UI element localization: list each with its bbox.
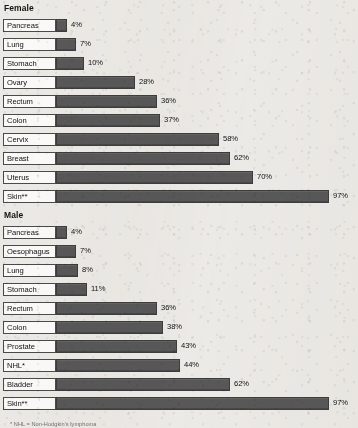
bar-category-label: Lung: [3, 264, 56, 277]
bar-row: Pancreas4%: [0, 224, 358, 243]
bar-row: Colon37%: [0, 112, 358, 131]
bar-fill: [56, 171, 253, 184]
bar-value-label: 97%: [333, 397, 348, 410]
bar-fill: [56, 302, 157, 315]
bar-category-label: Prostate: [3, 340, 56, 353]
bar-row: Skin**97%: [0, 395, 358, 414]
bar-category-label: Skin**: [3, 190, 56, 203]
bar-fill: [56, 359, 180, 372]
bar-fill: [56, 340, 177, 353]
chart-footnotes: * NHL = Non-Hodgkin's lymphoma: [10, 421, 96, 428]
bar-fill: [56, 152, 230, 165]
bar-value-label: 62%: [234, 378, 249, 391]
bar-fill: [56, 264, 78, 277]
bar-fill: [56, 321, 163, 334]
bar-value-label: 10%: [88, 57, 103, 70]
bar-category-label: Lung: [3, 38, 56, 51]
bar-category-label: Skin**: [3, 397, 56, 410]
bar-category-label: Stomach: [3, 283, 56, 296]
bar-row: Stomach10%: [0, 55, 358, 74]
bar-value-label: 58%: [223, 133, 238, 146]
bar-row: Cervix58%: [0, 131, 358, 150]
bar-fill: [56, 397, 329, 410]
bar-value-label: 44%: [184, 359, 199, 372]
bar-value-label: 4%: [71, 19, 82, 32]
bar-value-label: 28%: [139, 76, 154, 89]
bar-rows-male: Pancreas4%Oesophagus7%Lung8%Stomach11%Re…: [0, 224, 358, 414]
bar-category-label: Breast: [3, 152, 56, 165]
bar-category-label: Colon: [3, 114, 56, 127]
bar-value-label: 8%: [82, 264, 93, 277]
bar-rows-female: Pancreas4%Lung7%Stomach10%Ovary28%Rectum…: [0, 17, 358, 207]
bar-value-label: 7%: [80, 245, 91, 258]
bar-category-label: Ovary: [3, 76, 56, 89]
bar-category-label: Rectum: [3, 302, 56, 315]
bar-fill: [56, 19, 67, 32]
bar-fill: [56, 226, 67, 239]
panel-heading-female: Female: [0, 0, 358, 17]
bar-value-label: 7%: [80, 38, 91, 51]
bar-value-label: 36%: [161, 95, 176, 108]
bar-fill: [56, 76, 135, 89]
bar-row: Uterus70%: [0, 169, 358, 188]
bar-fill: [56, 114, 160, 127]
bar-category-label: NHL*: [3, 359, 56, 372]
bar-row: Pancreas4%: [0, 17, 358, 36]
bar-category-label: Stomach: [3, 57, 56, 70]
bar-fill: [56, 95, 157, 108]
bar-value-label: 11%: [91, 283, 106, 296]
chart-panel-male: Male Pancreas4%Oesophagus7%Lung8%Stomach…: [0, 207, 358, 414]
bar-value-label: 37%: [164, 114, 179, 127]
bar-row: Bladder62%: [0, 376, 358, 395]
bar-row: Ovary28%: [0, 74, 358, 93]
bar-row: Breast62%: [0, 150, 358, 169]
bar-row: Oesophagus7%: [0, 243, 358, 262]
bar-row: Colon38%: [0, 319, 358, 338]
bar-fill: [56, 133, 219, 146]
bar-fill: [56, 190, 329, 203]
bar-value-label: 70%: [257, 171, 272, 184]
bar-row: Lung7%: [0, 36, 358, 55]
bar-row: Stomach11%: [0, 281, 358, 300]
bar-value-label: 62%: [234, 152, 249, 165]
bar-row: Rectum36%: [0, 300, 358, 319]
bar-value-label: 4%: [71, 226, 82, 239]
bar-category-label: Bladder: [3, 378, 56, 391]
bar-row: Lung8%: [0, 262, 358, 281]
bar-category-label: Colon: [3, 321, 56, 334]
bar-category-label: Pancreas: [3, 19, 56, 32]
bar-fill: [56, 38, 76, 51]
bar-row: NHL*44%: [0, 357, 358, 376]
chart-panel-female: Female Pancreas4%Lung7%Stomach10%Ovary28…: [0, 0, 358, 207]
panel-heading-male: Male: [0, 207, 358, 224]
bar-value-label: 36%: [161, 302, 176, 315]
bar-category-label: Uterus: [3, 171, 56, 184]
bar-fill: [56, 283, 87, 296]
bar-category-label: Rectum: [3, 95, 56, 108]
bar-value-label: 38%: [167, 321, 182, 334]
bar-category-label: Pancreas: [3, 226, 56, 239]
bar-row: Prostate43%: [0, 338, 358, 357]
bar-row: Skin**97%: [0, 188, 358, 207]
bar-category-label: Oesophagus: [3, 245, 56, 258]
bar-row: Rectum36%: [0, 93, 358, 112]
bar-fill: [56, 57, 84, 70]
footnote-line: * NHL = Non-Hodgkin's lymphoma: [10, 421, 96, 428]
bar-fill: [56, 245, 76, 258]
bar-value-label: 43%: [181, 340, 196, 353]
survival-bar-chart: Female Pancreas4%Lung7%Stomach10%Ovary28…: [0, 0, 358, 414]
bar-fill: [56, 378, 230, 391]
bar-category-label: Cervix: [3, 133, 56, 146]
bar-value-label: 97%: [333, 190, 348, 203]
